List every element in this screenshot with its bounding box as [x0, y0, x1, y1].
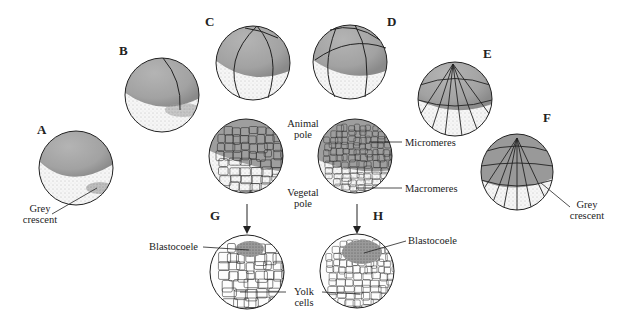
arrow-g [243, 204, 251, 234]
yolk-cells-label: Yolk cells [284, 286, 324, 308]
blastocoele-label-h: Blastocoele [408, 235, 457, 246]
arrow-h [353, 204, 361, 234]
panel-h-blastula-section [320, 234, 406, 314]
panel-letter-g: G [210, 208, 220, 224]
blastocoele-g [236, 241, 264, 257]
grey-crescent-f-line2: crescent [565, 210, 609, 221]
panel-h-blastula-external [318, 115, 402, 199]
panel-e-sixteen-cell [418, 55, 492, 136]
panel-letter-h: H [373, 208, 383, 224]
panel-letter-a: A [37, 122, 46, 138]
panel-letter-e: E [483, 46, 492, 62]
yolk-cells-line1: Yolk [284, 286, 324, 297]
embryo-cleavage-figure: A B C D E F G H Grey crescent Grey cresc… [0, 0, 618, 324]
animal-pole-label: Animal pole [283, 118, 323, 140]
animal-pole-line1: Animal [283, 118, 323, 129]
panel-f-thirty-two-cell [480, 125, 570, 212]
blastocoele-h [342, 240, 382, 264]
panel-g-blastula-external [208, 115, 290, 199]
panel-a-egg [39, 130, 114, 214]
macromeres-label: Macromeres [405, 183, 457, 194]
yolk-cells-line2: cells [284, 297, 324, 308]
panel-c-four-cell [215, 20, 292, 100]
figure-drawing [0, 0, 618, 324]
panel-g-blastula-section [203, 235, 293, 316]
panel-letter-b: B [119, 43, 128, 59]
vegetal-pole-line2: pole [281, 198, 325, 209]
vegetal-pole-line1: Vegetal [281, 187, 325, 198]
grey-crescent-label-a: Grey crescent [22, 203, 58, 225]
panel-letter-c: C [205, 14, 214, 30]
panel-b-two-cell [124, 55, 201, 132]
grey-crescent-a-line1: Grey [22, 203, 58, 214]
vegetal-pole-label: Vegetal pole [281, 187, 325, 209]
cell [365, 191, 373, 198]
panel-d-eight-cell [313, 20, 388, 99]
grey-crescent-f-line1: Grey [565, 199, 609, 210]
micromeres-label: Micromeres [405, 137, 456, 148]
grey-crescent-a-line2: crescent [22, 214, 58, 225]
panel-letter-d: D [387, 14, 396, 30]
panel-letter-f: F [543, 110, 551, 126]
grey-crescent-label-f: Grey crescent [565, 199, 609, 221]
animal-pole-line2: pole [283, 129, 323, 140]
blastocoele-label-g: Blastocoele [149, 241, 198, 252]
